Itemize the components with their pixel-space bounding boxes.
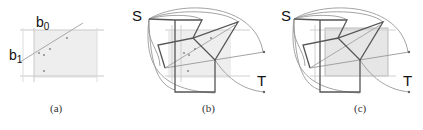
panel-c: S T (c) xyxy=(281,7,412,115)
panel-b: S T (b) xyxy=(132,7,266,115)
target-label: T xyxy=(257,72,266,89)
target-label: T xyxy=(403,72,412,89)
source-label: S xyxy=(132,7,142,24)
figure: b0 b1 (a) xyxy=(0,0,423,130)
caption-a: (a) xyxy=(50,102,63,115)
caption-c: (c) xyxy=(354,102,367,115)
source-label: S xyxy=(281,7,291,24)
panel-a: b0 b1 (a) xyxy=(9,14,104,115)
caption-b: (b) xyxy=(202,102,215,115)
label-b0: b0 xyxy=(36,14,50,32)
label-b1: b1 xyxy=(9,47,23,65)
shaded-region xyxy=(325,28,388,76)
shaded-region xyxy=(168,30,231,78)
